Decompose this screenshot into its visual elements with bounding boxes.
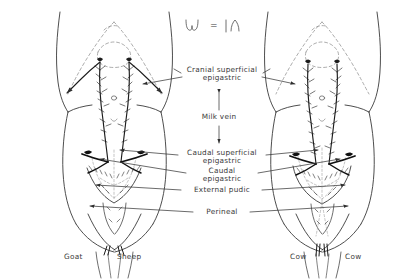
- left-midline-mark: [111, 119, 117, 121]
- legend-equals-sign: =: [207, 21, 221, 30]
- label-external-pudic: External pudic: [182, 186, 262, 195]
- leader-cranial-right: [262, 77, 295, 84]
- species-label-cow-left: Cow: [290, 252, 306, 261]
- leader-caudal-superficial-left: [120, 150, 178, 155]
- left-navel-marker: [111, 96, 116, 100]
- leader-cranial-tick-right: [263, 69, 270, 73]
- label-cranial-superficial-epigastric: Cranial superficial epigastric: [183, 66, 261, 83]
- leader-perineal-left: [90, 206, 193, 212]
- right-animal-body-outline: [265, 12, 381, 278]
- left-caudal-epigastric-vessels: [82, 154, 147, 162]
- label-line-2: epigastric: [203, 174, 241, 183]
- left-udder-dashed-outline: [92, 150, 136, 200]
- left-cranial-superficial-epigastric-vessels: [67, 62, 162, 93]
- label-perineal: Perineal: [194, 208, 250, 217]
- label-line-2: epigastric: [203, 73, 241, 82]
- label-line-2: epigastric: [203, 156, 241, 165]
- leader-caudal-superficial-right: [266, 150, 318, 155]
- right-caudal-epigastric-vessels: [290, 156, 355, 164]
- leader-caudal-epigastric-left: [100, 159, 186, 173]
- label-caudal-superficial-epigastric: Caudal superficial epigastric: [179, 149, 265, 166]
- left-animal-body-outline: [57, 12, 173, 278]
- right-midline-mark: [319, 119, 325, 121]
- species-label-goat: Goat: [64, 252, 83, 261]
- right-vein-tributaries: [303, 68, 342, 154]
- left-udder-outline: [87, 168, 141, 234]
- leader-external-pudic-left: [96, 185, 181, 190]
- anatomy-line-art: [0, 0, 418, 279]
- label-caudal-epigastric: Caudal epigastric: [187, 167, 257, 184]
- diagram-canvas: = Cranial superficial epigastric Milk ve…: [0, 0, 418, 279]
- label-line-1: Milk vein: [202, 112, 237, 121]
- label-line-1: External pudic: [194, 185, 250, 194]
- leader-cranial-tick-left: [174, 69, 181, 73]
- label-line-1: Perineal: [206, 207, 237, 216]
- species-label-cow-right: Cow: [345, 252, 361, 261]
- species-label-sheep: Sheep: [117, 252, 141, 261]
- right-navel-marker: [319, 96, 324, 100]
- label-milk-vein: Milk vein: [194, 113, 244, 122]
- right-external-pudic-vessels: [296, 164, 349, 175]
